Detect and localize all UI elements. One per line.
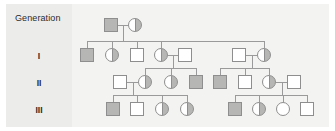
descent-line — [282, 82, 283, 95]
pedigree-female-unaffected-iii-7[interactable] — [276, 102, 290, 116]
sibling-drop-line — [112, 41, 113, 48]
pedigree-male-unaffected-ii-8[interactable] — [287, 75, 301, 89]
sibling-drop-line — [259, 95, 260, 102]
pedigree-female-carrier-iii-4[interactable] — [180, 102, 194, 116]
sibling-drop-line — [264, 41, 265, 48]
generation-label-iii: III — [6, 105, 72, 115]
generation-label-i: I — [6, 51, 72, 61]
sibling-drop-line — [137, 95, 138, 102]
sibling-drop-line — [113, 95, 114, 102]
pedigree-male-affected-ii-4[interactable] — [189, 75, 203, 89]
pedigree-female-carrier-iii-3[interactable] — [155, 102, 169, 116]
sibship-line — [87, 41, 264, 42]
sibling-drop-line — [171, 68, 172, 75]
pedigree-male-unaffected-i-3[interactable] — [130, 48, 144, 62]
sibship-line — [235, 95, 307, 96]
pedigree-female-carrier-i-7[interactable] — [257, 48, 271, 62]
pedigree-male-unaffected-iii-8[interactable] — [300, 102, 314, 116]
descent-line — [252, 55, 253, 68]
descent-line — [173, 55, 174, 68]
sibling-drop-line — [196, 68, 197, 75]
sibling-drop-line — [137, 41, 138, 48]
pedigree-male-affected-iii-1[interactable] — [106, 102, 120, 116]
descent-line — [133, 82, 134, 95]
generation-label-ii: II — [6, 78, 72, 88]
pedigree-male-affected-p-1[interactable] — [104, 18, 118, 32]
pedigree-male-unaffected-i-6[interactable] — [232, 48, 246, 62]
pedigree-male-unaffected-iii-2[interactable] — [130, 102, 144, 116]
pedigree-female-carrier-p-2[interactable] — [128, 18, 142, 32]
pedigree-female-carrier-ii-7[interactable] — [262, 75, 276, 89]
sibling-drop-line — [145, 68, 146, 75]
pedigree-male-affected-i-1[interactable] — [80, 48, 94, 62]
sibship-line — [113, 95, 187, 96]
pedigree-female-carrier-i-4[interactable] — [154, 48, 168, 62]
generation-legend: Generation I II III — [6, 4, 72, 127]
sibling-drop-line — [220, 68, 221, 75]
sibling-drop-line — [307, 95, 308, 102]
pedigree-female-carrier-i-2[interactable] — [105, 48, 119, 62]
sibling-drop-line — [161, 41, 162, 48]
pedigree-male-unaffected-ii-1[interactable] — [113, 75, 127, 89]
pedigree-male-affected-ii-5[interactable] — [213, 75, 227, 89]
sibling-drop-line — [283, 95, 284, 102]
sibling-drop-line — [162, 95, 163, 102]
pedigree-figure: Generation I II III — [0, 0, 335, 131]
pedigree-female-carrier-iii-6[interactable] — [252, 102, 266, 116]
generation-title: Generation — [15, 13, 61, 23]
pedigree-male-unaffected-i-5[interactable] — [178, 48, 192, 62]
descent-line — [123, 25, 124, 41]
sibling-drop-line — [235, 95, 236, 102]
sibling-drop-line — [269, 68, 270, 75]
pedigree-male-affected-iii-5[interactable] — [228, 102, 242, 116]
sibling-drop-line — [187, 95, 188, 102]
sibling-drop-line — [87, 41, 88, 48]
pedigree-female-carrier-ii-2[interactable] — [138, 75, 152, 89]
pedigree-male-unaffected-ii-6[interactable] — [238, 75, 252, 89]
pedigree-female-carrier-ii-3[interactable] — [164, 75, 178, 89]
sibling-drop-line — [245, 68, 246, 75]
